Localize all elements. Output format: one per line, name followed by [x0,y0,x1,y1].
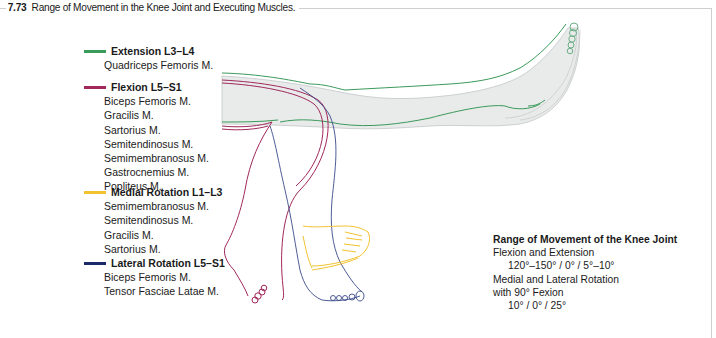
muscle-item: Gracilis M. [84,228,222,242]
rom-flex-ext-values: 120°–150° / 0° / 5°–10° [493,259,677,272]
legend-heading: Medial Rotation L1–L3 [84,185,222,199]
medial-rotation-swatch-icon [84,191,106,194]
extension-swatch-icon [84,50,106,53]
rom-flex-ext-label: Flexion and Extension [493,246,677,259]
legend-heading: Flexion L5–S1 [84,80,209,94]
muscle-item: Gastrocnemius M. [84,165,209,179]
legend-label: Extension L3–L4 [111,44,194,58]
legend-heading: Extension L3–L4 [84,44,213,58]
legend-extension: Extension L3–L4 Quadriceps Femoris M. [84,44,213,72]
legend-medial-rotation: Medial Rotation L1–L3 Semimembranosus M.… [84,185,222,256]
medial-rotation-lines [303,226,370,270]
muscle-item: Sartorius M. [84,123,209,137]
rom-rotation-values: 10° / 0° / 25° [493,299,677,312]
legend-heading: Lateral Rotation L5–S1 [84,256,225,270]
legend-label: Flexion L5–S1 [111,80,182,94]
muscle-item: Biceps Femoris M. [84,94,209,108]
muscle-item: Semimembranosus M. [84,199,222,213]
muscle-item: Sartorius M. [84,242,222,256]
muscle-item: Semitendinosus M. [84,213,222,227]
rom-rotation-label: Medial and Lateral Rotation [493,273,677,286]
rom-rotation-condition: with 90° Fexion [493,286,677,299]
muscle-item: Quadriceps Femoris M. [84,58,213,72]
legend-label: Medial Rotation L1–L3 [111,185,222,199]
legend-lateral-rotation: Lateral Rotation L5–S1 Biceps Femoris M.… [84,256,225,299]
extended-leg [222,23,580,129]
muscle-item: Gracilis M. [84,108,209,122]
rom-title: Range of Movement of the Knee Joint [493,233,677,246]
muscle-item: Semitendinosus M. [84,137,209,151]
muscle-item: Semimembranosus M. [84,151,209,165]
muscle-item: Biceps Femoris M. [84,270,225,284]
legend-label: Lateral Rotation L5–S1 [111,256,225,270]
muscle-item: Tensor Fasciae Latae M. [84,284,225,298]
flexion-swatch-icon [84,86,106,89]
legend-flexion: Flexion L5–S1 Biceps Femoris M. Gracilis… [84,80,209,194]
lateral-rotation-swatch-icon [84,262,106,265]
range-of-movement-info: Range of Movement of the Knee Joint Flex… [493,233,677,312]
